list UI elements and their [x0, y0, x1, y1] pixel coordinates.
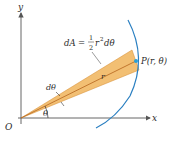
point-p: [134, 59, 138, 63]
svg-text:1: 1: [89, 34, 93, 42]
point-label: P(r, θ): [140, 56, 167, 66]
d-theta-label: dθ: [46, 83, 56, 92]
svg-text:dθ: dθ: [104, 38, 115, 48]
area-leader-line: [92, 52, 101, 64]
theta-label: θ: [43, 109, 48, 118]
x-axis-label: x: [152, 113, 157, 123]
y-axis-label: y: [17, 2, 24, 12]
polar-area-diagram: y x O dA = 1 2 r 2 dθ P(r, θ) r dθ θ: [0, 0, 180, 141]
svg-text:dA: dA: [64, 38, 76, 48]
d-theta-pointer-lower: [61, 102, 64, 106]
area-formula: dA = 1 2 r 2 dθ: [64, 34, 115, 52]
svg-text:2: 2: [100, 36, 104, 42]
origin-label: O: [5, 122, 13, 132]
svg-text:=: =: [78, 38, 85, 48]
svg-text:2: 2: [89, 44, 93, 52]
radius-line: [21, 61, 136, 118]
